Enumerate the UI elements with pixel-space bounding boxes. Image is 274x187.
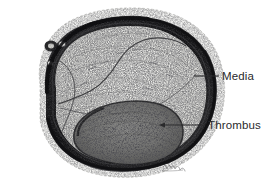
label-media: Media [222,71,254,83]
artery-cross-section-illustration [0,0,274,187]
label-thrombus: Thrombus [208,120,261,132]
figure-root: Media Thrombus [0,0,274,187]
